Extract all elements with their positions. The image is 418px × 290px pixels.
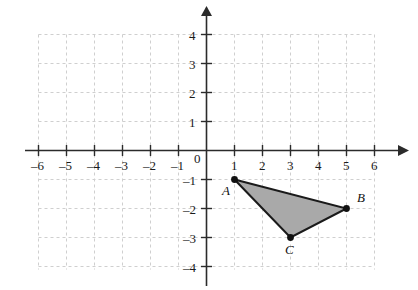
vertex-point-a bbox=[231, 176, 238, 183]
vertex-point-b bbox=[343, 205, 350, 212]
x-tick-label--5: –5 bbox=[59, 159, 72, 172]
y-tick-label-1: 1 bbox=[189, 116, 196, 129]
x-tick-label--3: –3 bbox=[115, 159, 128, 172]
x-tick-label-2: 2 bbox=[259, 159, 266, 172]
y-tick-label-2: 2 bbox=[189, 87, 196, 100]
coordinate-plane-svg bbox=[0, 0, 418, 290]
y-tick-label-4: 4 bbox=[189, 29, 196, 42]
y-axis-arrowhead bbox=[201, 6, 212, 16]
y-tick-label-3: 3 bbox=[189, 58, 196, 71]
x-axis-arrowhead bbox=[398, 145, 409, 156]
x-tick-label-4: 4 bbox=[315, 159, 322, 172]
vertex-label-b: B bbox=[357, 191, 365, 204]
x-tick-label-5: 5 bbox=[343, 159, 350, 172]
x-tick-label-3: 3 bbox=[287, 159, 294, 172]
y-tick-label--2: –2 bbox=[183, 203, 196, 216]
coordinate-plane-diagram: –6 –5 –4 –3 –2 –1 0 1 2 3 4 5 6 4 3 2 1 … bbox=[0, 0, 418, 290]
x-tick-label--1: –1 bbox=[171, 159, 184, 172]
y-tick-label--3: –3 bbox=[183, 232, 196, 245]
x-tick-label--2: –2 bbox=[143, 159, 156, 172]
x-tick-label--4: –4 bbox=[87, 159, 100, 172]
vertex-point-c bbox=[287, 234, 294, 241]
vertex-label-c: C bbox=[285, 243, 294, 256]
x-tick-label-1: 1 bbox=[231, 159, 238, 172]
axes bbox=[25, 6, 409, 286]
x-tick-label--6: –6 bbox=[31, 159, 44, 172]
origin-label: 0 bbox=[194, 152, 201, 165]
y-tick-label--1: –1 bbox=[183, 174, 196, 187]
y-tick-label--4: –4 bbox=[183, 261, 196, 274]
x-tick-label-6: 6 bbox=[371, 159, 378, 172]
vertex-label-a: A bbox=[222, 184, 230, 197]
